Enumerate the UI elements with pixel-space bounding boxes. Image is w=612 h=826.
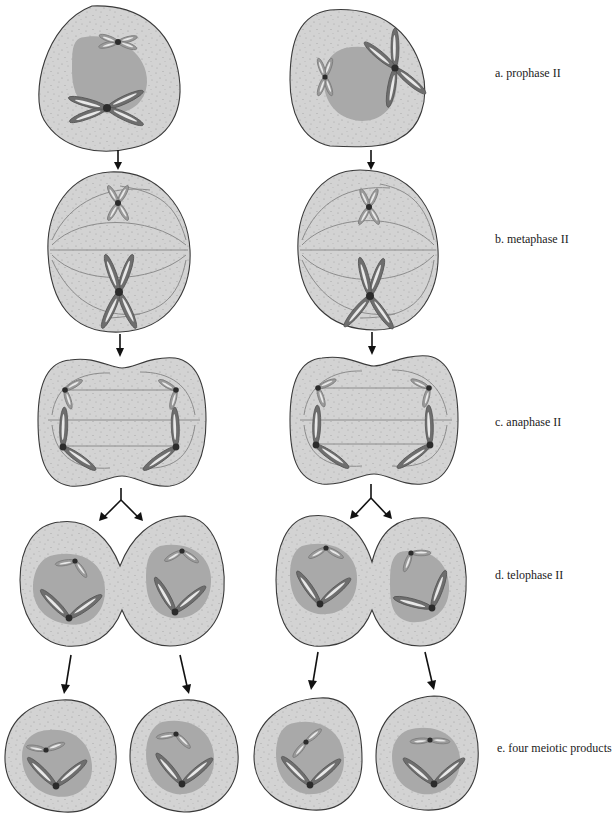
split-arrow-icon [350,484,392,519]
arrow-down-icon [180,655,191,694]
arrow-down-icon [367,150,375,170]
label-telophase-ii: d. telophase II [495,568,563,583]
arrow-down-icon [116,334,124,357]
meiotic-product-cell-3 [254,698,362,810]
metaphase-ii-cell-right [298,170,438,331]
meiotic-product-cell-4 [376,696,478,810]
label-anaphase-ii: c. anaphase II [495,415,561,430]
arrow-down-icon [368,332,376,355]
arrow-down-icon [425,652,436,690]
telophase-ii-cell-left [20,516,224,646]
label-metaphase-ii: b. metaphase II [495,232,569,247]
arrow-down-icon [308,652,318,690]
label-prophase-ii: a. prophase II [495,66,561,81]
metaphase-ii-cell-left [48,172,190,332]
telophase-ii-cell-right [276,515,466,646]
split-arrow-icon [99,488,143,521]
anaphase-ii-cell-right [290,356,458,484]
meiotic-product-cell-2 [130,700,238,812]
meiotic-product-cell-1 [5,700,116,812]
arrow-down-icon [61,655,71,694]
label-four-meiotic-products: e. four meiotic products [497,741,612,756]
prophase-ii-cell-right [290,10,428,147]
anaphase-ii-cell-left [38,358,206,486]
arrow-down-icon [114,150,122,170]
prophase-ii-cell-left [39,6,180,151]
